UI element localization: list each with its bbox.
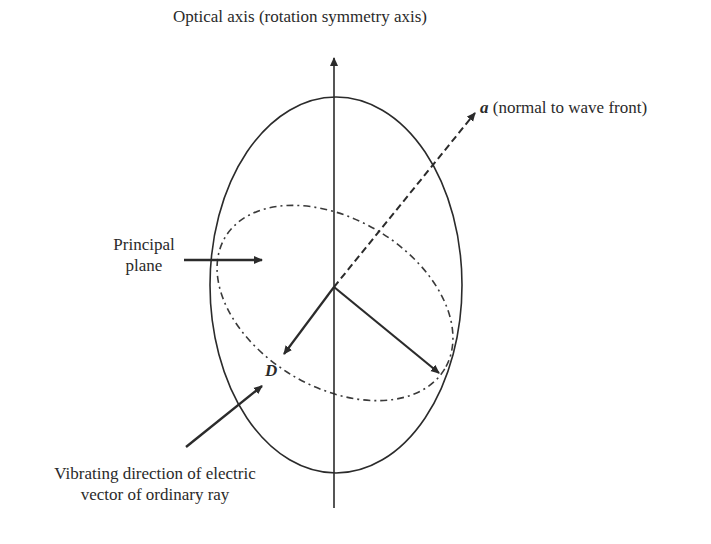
- optical-axis-label: Optical axis (rotation symmetry axis): [173, 6, 427, 27]
- principal-plane-label-line2: plane: [104, 255, 184, 276]
- vibrating-direction-label-line1: Vibrating direction of electric: [22, 463, 288, 484]
- normal-vector-symbol: a: [480, 98, 489, 117]
- wave-normal-arrow: [334, 113, 475, 287]
- vibrating-direction-label: Vibrating direction of electric vector o…: [22, 463, 288, 505]
- vibrating-direction-label-line2: vector of ordinary ray: [22, 484, 288, 505]
- normal-vector-description: (normal to wave front): [489, 98, 648, 117]
- vibrating-direction-pointer-arrow: [186, 386, 262, 447]
- principal-plane-label: Principal plane: [104, 234, 184, 276]
- d-vector-label: D: [265, 360, 277, 381]
- d-vector-arrow: [284, 287, 334, 354]
- wave-normal-label: a (normal to wave front): [480, 97, 647, 118]
- extraordinary-vector-arrow: [334, 287, 439, 373]
- principal-plane-label-line1: Principal: [104, 234, 184, 255]
- principal-plane-ellipse: [182, 165, 488, 441]
